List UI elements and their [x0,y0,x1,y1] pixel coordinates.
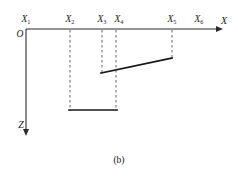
tick-sub-x4: 4 [120,18,123,25]
tick-sub-x3: 3 [103,18,106,25]
z-axis-label: Z [18,119,24,130]
origin-label: O [17,29,24,39]
x-axis-group [26,26,223,32]
x-axis-label: X [220,15,228,26]
tick-sub-x2: 2 [71,18,74,25]
cross-section-diagram: O X Z X1 X2 X3 X4 X5 X6 [0,0,238,176]
figure-container: O X Z X1 X2 X3 X4 X5 X6 (b) [0,0,238,176]
z-axis-group [23,29,29,136]
tick-label-x1: X1 [21,14,31,25]
z-axis-arrowhead [23,129,29,136]
tick-sub-x5: 5 [173,18,176,25]
tick-sub-x1: 1 [27,18,30,25]
dashed-verticals-group [70,30,172,111]
profile-group [69,58,172,110]
tick-label-x3: X3 [97,14,107,25]
tick-label-x6: X6 [194,14,204,25]
tick-sub-x6: 6 [200,18,203,25]
x-axis-arrowhead [216,26,223,32]
tick-label-x5: X5 [167,14,177,25]
figure-caption: (b) [0,155,238,165]
tick-label-x2: X2 [65,14,75,25]
inclined-segment [101,58,172,73]
tick-label-x4: X4 [114,14,124,25]
